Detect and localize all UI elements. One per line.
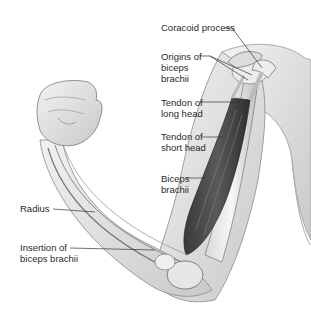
label-origins-of-biceps-brachii: Origins of biceps brachii (161, 51, 202, 84)
label-insertion-of-biceps-brachii: Insertion of biceps brachii (20, 242, 78, 264)
fist (37, 81, 102, 146)
label-tendon-of-long-head: Tendon of long head (161, 97, 203, 119)
label-coracoid-process: Coracoid process (161, 22, 235, 33)
label-biceps-brachii: Biceps brachii (161, 173, 190, 195)
label-radius: Radius (20, 203, 50, 214)
biceps-anatomy-illustration (0, 0, 311, 330)
label-tendon-of-short-head: Tendon of short head (161, 131, 206, 153)
